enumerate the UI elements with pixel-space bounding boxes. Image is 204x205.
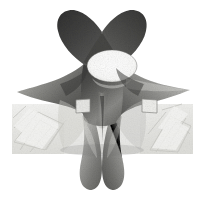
contact-shadow bbox=[60, 144, 144, 156]
right-tab bbox=[142, 99, 157, 113]
left-tab bbox=[76, 99, 90, 113]
image-canvas: A symmetric grayscale sculpture of a mat… bbox=[0, 0, 204, 205]
surface-illustration bbox=[0, 0, 204, 205]
